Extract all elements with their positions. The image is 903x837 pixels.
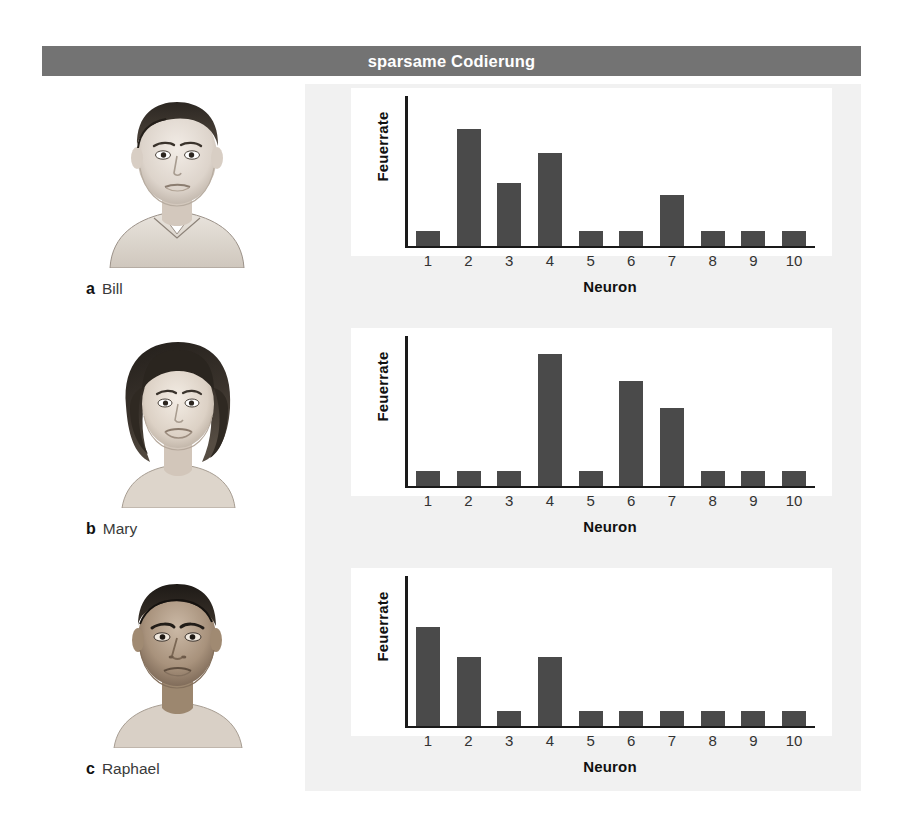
portrait-row-raphael: cRaphael [42, 564, 305, 800]
x-axis-ticks: 12345678910 [408, 492, 815, 509]
bar [660, 711, 684, 726]
panel-index-a: a [86, 280, 95, 297]
portrait-mary-sketch [92, 328, 262, 508]
bar [619, 711, 643, 726]
bar [701, 231, 725, 246]
x-axis-tick-label: 1 [416, 492, 440, 509]
x-axis-tick-label: 8 [701, 492, 725, 509]
bar [660, 195, 684, 246]
x-axis-tick-label: 6 [619, 252, 643, 269]
x-axis-tick-label: 4 [538, 252, 562, 269]
chart-row-mary: Feuerrate 12345678910 Neuron [305, 324, 861, 560]
bar [416, 627, 440, 725]
x-axis-tick-label: 8 [701, 252, 725, 269]
bar-series [408, 97, 815, 246]
portrait-column: aBill [42, 84, 305, 791]
panel-index-c: c [86, 760, 95, 777]
y-axis-label: Feuerrate [374, 342, 391, 432]
plot-area [405, 96, 815, 248]
x-axis-line [405, 246, 815, 249]
bar [538, 354, 562, 485]
panel-name-raphael: Raphael [102, 760, 160, 777]
portrait-caption-bill: aBill [86, 280, 123, 298]
bar [741, 711, 765, 726]
x-axis-tick-label: 5 [579, 492, 603, 509]
x-axis-tick-label: 4 [538, 732, 562, 749]
bar [741, 471, 765, 486]
x-axis-line [405, 486, 815, 489]
bar [457, 471, 481, 486]
x-axis-tick-label: 7 [660, 252, 684, 269]
bar [457, 657, 481, 726]
bar-series [408, 337, 815, 486]
bar [538, 657, 562, 726]
x-axis-tick-label: 3 [497, 252, 521, 269]
plot-area [405, 576, 815, 728]
x-axis-tick-label: 1 [416, 732, 440, 749]
bar [579, 711, 603, 726]
bar [619, 231, 643, 246]
x-axis-tick-label: 6 [619, 492, 643, 509]
y-axis-label: Feuerrate [374, 102, 391, 192]
portrait-raphael-sketch [92, 568, 262, 748]
x-axis-tick-label: 10 [782, 732, 806, 749]
x-axis-tick-label: 9 [741, 252, 765, 269]
x-axis-tick-label: 2 [457, 492, 481, 509]
x-axis-tick-label: 4 [538, 492, 562, 509]
bar [701, 711, 725, 726]
x-axis-ticks: 12345678910 [408, 732, 815, 749]
x-axis-ticks: 12345678910 [408, 252, 815, 269]
panel-index-b: b [86, 520, 96, 537]
plot-area [405, 336, 815, 488]
bar [497, 711, 521, 726]
chart-column: Feuerrate 12345678910 Neuron Feuerrate [305, 84, 861, 791]
bar [497, 471, 521, 486]
bar-chart-mary: Feuerrate 12345678910 Neuron [351, 328, 832, 496]
x-axis-label: Neuron [405, 278, 815, 295]
x-axis-tick-label: 3 [497, 732, 521, 749]
x-axis-tick-label: 2 [457, 732, 481, 749]
portrait-bill-sketch [92, 88, 262, 268]
x-axis-tick-label: 9 [741, 732, 765, 749]
x-axis-tick-label: 6 [619, 732, 643, 749]
chart-row-raphael: Feuerrate 12345678910 Neuron [305, 564, 861, 800]
chart-row-bill: Feuerrate 12345678910 Neuron [305, 84, 861, 320]
bar-chart-raphael: Feuerrate 12345678910 Neuron [351, 568, 832, 736]
y-axis-label: Feuerrate [374, 582, 391, 672]
bar [497, 183, 521, 246]
x-axis-tick-label: 8 [701, 732, 725, 749]
figure-body: aBill [42, 84, 861, 791]
portrait-row-mary: bMary [42, 324, 305, 560]
bar [741, 231, 765, 246]
bar [782, 471, 806, 486]
x-axis-label: Neuron [405, 518, 815, 535]
x-axis-tick-label: 10 [782, 252, 806, 269]
x-axis-tick-label: 9 [741, 492, 765, 509]
bar [619, 381, 643, 485]
figure-sparse-coding: sparsame Codierung [42, 46, 861, 791]
panel-name-mary: Mary [103, 520, 137, 537]
bar [579, 231, 603, 246]
bar [416, 231, 440, 246]
x-axis-tick-label: 10 [782, 492, 806, 509]
bar [701, 471, 725, 486]
x-axis-tick-label: 1 [416, 252, 440, 269]
bar [538, 153, 562, 245]
figure-title-bar: sparsame Codierung [42, 46, 861, 76]
x-axis-tick-label: 7 [660, 492, 684, 509]
x-axis-tick-label: 5 [579, 732, 603, 749]
portrait-caption-mary: bMary [86, 520, 137, 538]
x-axis-tick-label: 3 [497, 492, 521, 509]
bar [782, 231, 806, 246]
panel-name-bill: Bill [102, 280, 123, 297]
x-axis-line [405, 726, 815, 729]
x-axis-label: Neuron [405, 758, 815, 775]
bar [579, 471, 603, 486]
bar [416, 471, 440, 486]
figure-title: sparsame Codierung [368, 52, 536, 71]
portrait-caption-raphael: cRaphael [86, 760, 160, 778]
bar [782, 711, 806, 726]
x-axis-tick-label: 5 [579, 252, 603, 269]
portrait-row-bill: aBill [42, 84, 305, 320]
x-axis-tick-label: 7 [660, 732, 684, 749]
